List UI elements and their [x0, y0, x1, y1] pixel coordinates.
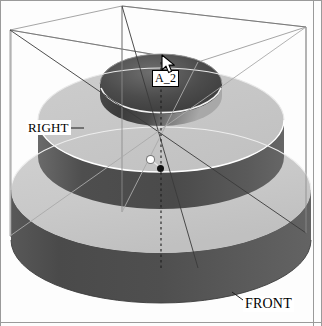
model-scene[interactable] — [0, 0, 322, 326]
highlighted-vertex-marker[interactable] — [147, 156, 154, 163]
arrow-pointer-icon — [161, 54, 177, 76]
frame-edge-right — [313, 0, 314, 326]
frame-edge-top — [0, 0, 322, 1]
picked-point-marker[interactable] — [157, 165, 164, 172]
datum-plane-label-right[interactable]: RIGHT — [26, 120, 71, 135]
frame-edge-left — [0, 0, 1, 326]
cad-3d-viewport[interactable]: A_2 RIGHT FRONT — [0, 0, 322, 326]
frame-edge-bottom — [0, 322, 322, 323]
datum-plane-label-front[interactable]: FRONT — [243, 296, 294, 312]
